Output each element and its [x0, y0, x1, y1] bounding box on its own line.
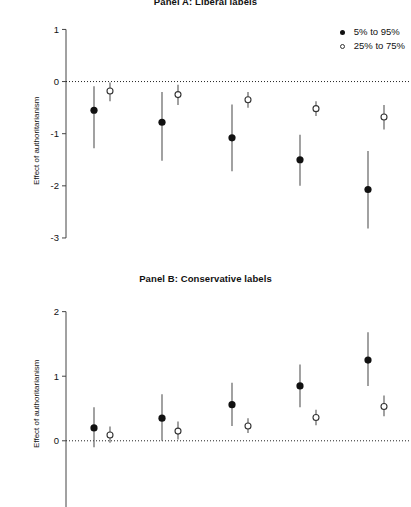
- interval-5-95: [296, 365, 303, 408]
- panel-a: Panel A: Liberal labels Effect of author…: [0, 0, 411, 268]
- legend: 5% to 95% 25% to 75%: [337, 25, 405, 53]
- interval-5-95: [364, 332, 371, 386]
- interval-25-75: [313, 101, 319, 116]
- panel-b: Panel B: Conservative labels Effect of a…: [0, 268, 411, 507]
- legend-item-25-75: 25% to 75%: [337, 39, 405, 53]
- interval-5-95: [296, 135, 303, 186]
- interval-25-75: [245, 418, 251, 433]
- y-tick-label: 1: [54, 371, 59, 382]
- interval-25-75: [107, 427, 113, 443]
- interval-25-75: [175, 421, 181, 439]
- interval-5-95: [90, 86, 97, 148]
- interval-25-75: [313, 410, 319, 426]
- figure: Panel A: Liberal labels Effect of author…: [0, 0, 411, 507]
- interval-5-95: [158, 92, 165, 161]
- interval-25-75: [175, 85, 181, 105]
- interval-5-95: [158, 394, 165, 441]
- filled-circle-icon: [337, 30, 348, 35]
- legend-item-5-95: 5% to 95%: [337, 25, 405, 39]
- y-tick-label: 0: [54, 435, 59, 446]
- y-tick-label: -3: [51, 232, 59, 243]
- panel-b-plot: 210: [0, 268, 411, 507]
- interval-5-95: [228, 383, 235, 426]
- y-tick-label: 2: [54, 306, 59, 317]
- interval-25-75: [381, 396, 387, 417]
- y-tick-label: 0: [54, 76, 59, 87]
- y-tick-label: 1: [54, 24, 59, 35]
- interval-5-95: [228, 105, 235, 172]
- y-tick-label: -1: [51, 128, 59, 139]
- interval-5-95: [364, 151, 371, 229]
- interval-25-75: [245, 92, 251, 108]
- y-tick-label: -2: [51, 180, 59, 191]
- legend-label-5-95: 5% to 95%: [354, 25, 400, 39]
- open-circle-icon: [337, 44, 348, 49]
- interval-25-75: [381, 105, 387, 130]
- legend-label-25-75: 25% to 75%: [354, 39, 405, 53]
- interval-25-75: [107, 83, 113, 102]
